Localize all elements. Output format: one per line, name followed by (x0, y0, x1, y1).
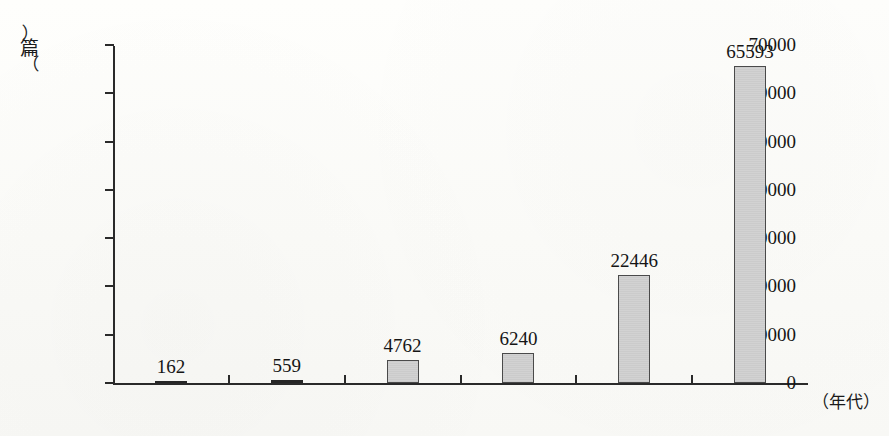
bar-2000s (618, 275, 650, 383)
bar-1980s (387, 360, 419, 383)
bar-2010s (734, 66, 766, 383)
y-axis-tick (105, 44, 114, 46)
bar-1960s (155, 381, 187, 383)
y-axis-tick (105, 92, 114, 94)
bar-chart-figure: ︵ 篇 ︶ （年代） 01000020000300004000050000600… (0, 0, 889, 436)
y-axis-tick (105, 141, 114, 143)
x-axis-unit-label: （年代） (812, 388, 880, 413)
x-axis-tick (575, 375, 577, 384)
bar-1990s (502, 353, 534, 383)
x-axis-tick (460, 375, 462, 384)
x-axis-tick (344, 375, 346, 384)
y-axis-tick (105, 285, 114, 287)
y-axis-tick (105, 189, 114, 191)
y-axis-unit-paren-open: ︵ (25, 16, 34, 50)
x-axis-tick (691, 375, 693, 384)
y-axis-tick (105, 334, 114, 336)
y-axis-unit-paren-close: ︶ (25, 47, 34, 81)
bar-value-label: 4762 (343, 336, 463, 355)
bar-value-label: 6240 (458, 329, 578, 348)
y-axis-tick (105, 382, 114, 384)
y-axis-unit-label: ︵ 篇 ︶ (12, 28, 46, 68)
bar-value-label: 65593 (690, 42, 810, 61)
bar-value-label: 22446 (574, 251, 694, 270)
bar-value-label: 162 (111, 357, 231, 376)
bar-value-label: 559 (227, 356, 347, 375)
bar-1970s (271, 380, 303, 383)
y-axis-tick (105, 237, 114, 239)
plot-area: 010000200003000040000500006000070000 162… (113, 46, 808, 384)
x-axis-tick (228, 375, 230, 384)
y-axis-tick-label: 0 (787, 373, 797, 392)
